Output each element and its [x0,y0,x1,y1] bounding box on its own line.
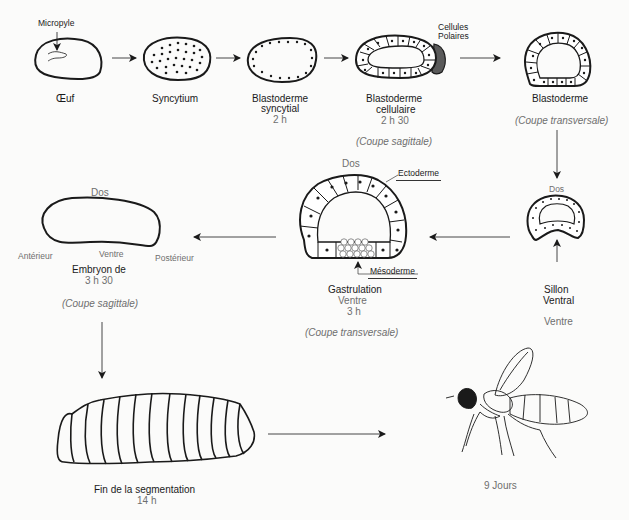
embryo-ventral-label: Ventre [99,249,124,260]
ventral-furrow-illustration [528,195,585,240]
embryo-dorsal-label: Dos [91,187,109,198]
syncytial-blastoderm-illustration [248,38,316,82]
egg-illustration [35,32,101,79]
segmentation-label: Fin de la segmentation [94,484,195,495]
embryo-3h30-label: Embryon de [72,264,126,275]
transverse-section-label-2: (Coupe transversale) [305,327,398,338]
egg-label: Œuf [56,93,74,104]
ventral-furrow-label-1: Sillon [544,284,568,295]
ectoderm-label: Ectoderme [396,168,441,181]
anterior-label: Antérieur [18,251,53,262]
adult-fly-illustration [446,348,588,458]
ventral-furrow-dorsal-label: Dos [549,184,564,195]
sagittal-section-label-1: (Coupe sagittale) [356,136,432,147]
syncytium-illustration [144,38,211,80]
blastoderm-label: Blastoderme [532,93,588,104]
segmentation-time: 14 h [137,495,156,506]
cellular-blastoderm-illustration [356,36,445,78]
ventral-furrow-ventral-label: Ventre [544,316,573,327]
embryo-3h30-illustration [42,198,159,246]
segmented-embryo-illustration [57,393,254,464]
blastoderm-transverse-illustration [525,33,590,86]
syncytial-blastoderm-label-2: syncytial [261,103,299,114]
gastrulation-time: 3 h [347,306,361,317]
gastrulation-illustration [300,175,418,274]
micropyle-label: Micropyle [38,18,74,29]
ventral-furrow-label-2: Ventral [543,295,574,306]
sagittal-section-label-2: (Coupe sagittale) [62,298,138,309]
transverse-section-label-1: (Coupe transversale) [515,115,608,126]
posterior-label: Postérieur [155,253,194,264]
gastrulation-dorsal-label: Dos [342,158,360,169]
polar-cells-label-2: Polaires [438,31,469,42]
cellular-blastoderm-time: 2 h 30 [381,115,409,126]
gastrulation-label: Gastrulation [328,284,382,295]
syncytial-blastoderm-time: 2 h [273,114,287,125]
syncytium-label: Syncytium [152,93,198,104]
adult-age-label: 9 Jours [484,480,517,491]
embryo-3h30-time: 3 h 30 [85,275,113,286]
development-diagram [0,0,629,520]
mesoderm-label: Mésoderme [368,266,417,279]
cellular-blastoderm-label-1: Blastoderme [366,93,422,104]
cellular-blastoderm-label-2: cellulaire [376,104,415,115]
gastrulation-ventral-label: Ventre [338,295,367,306]
